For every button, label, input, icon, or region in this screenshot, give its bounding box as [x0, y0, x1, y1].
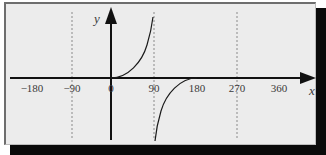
y-axis-arrow-icon [105, 7, 117, 24]
x-tick-label: −180 [21, 82, 44, 94]
y-axis-label: y [92, 11, 100, 26]
x-tick-label: 360 [271, 82, 288, 94]
x-tick-label: 270 [229, 82, 246, 94]
chart-plot: −180 −90 0 90 180 270 360 x y [0, 0, 326, 155]
x-tick-label: 0 [108, 82, 114, 94]
x-tick-label: 180 [189, 82, 206, 94]
curve-branch-1 [111, 17, 153, 78]
x-axis-label: x [308, 83, 315, 98]
x-tick-label: 90 [149, 82, 161, 94]
x-tick-label: −90 [63, 82, 81, 94]
